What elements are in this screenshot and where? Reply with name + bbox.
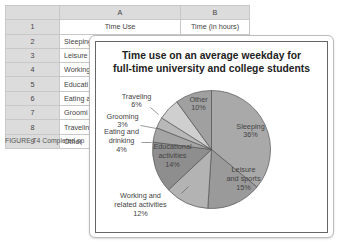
leader-line [141,126,157,129]
data-label-other: Other10% [189,95,208,113]
figure-caption: FIGURE T4 Completed sp [5,137,84,144]
data-label-eating-and-drinking: Eating anddrinking4% [104,127,139,153]
pie-chart: Sleeping36%Leisureand sports15%Working a… [96,42,328,232]
column-header-a[interactable]: A [60,6,181,20]
row-number[interactable]: 8 [6,120,60,134]
table-row: 1 Time Use Time (in hours) [6,20,250,34]
column-header-row: A B [6,6,250,20]
cell-b1[interactable]: Time (in hours) [181,20,250,34]
row-number[interactable]: 4 [6,63,60,77]
row-number[interactable]: 6 [6,91,60,105]
data-label-traveling: Traveling6% [122,92,152,110]
data-label-working-and-related-activities: Working andrelated activities12% [114,191,167,217]
row-number[interactable]: 5 [6,77,60,91]
corner-cell[interactable] [6,6,60,20]
row-number[interactable]: 2 [6,34,60,48]
row-number[interactable]: 3 [6,48,60,62]
row-number[interactable]: 1 [6,20,60,34]
row-number[interactable]: 7 [6,106,60,120]
column-header-b[interactable]: B [181,6,250,20]
leader-line [151,108,159,115]
cell-a1[interactable]: Time Use [60,20,181,34]
chart-area: Time use on an average weekday for full-… [95,41,328,233]
chart-panel[interactable]: Time use on an average weekday for full-… [89,35,334,238]
